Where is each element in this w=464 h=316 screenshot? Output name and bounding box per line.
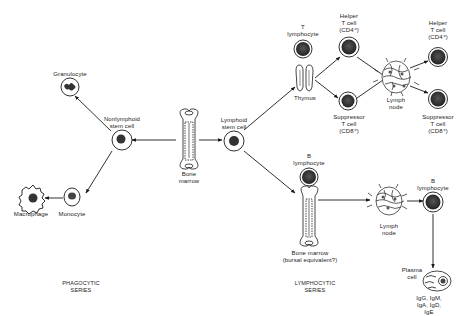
macrophage-icon (19, 185, 45, 214)
label-suppressor-t-cell-2: Suppressor T cell (CD8⁺) (422, 114, 454, 135)
label-lymph-node-b: Lymph node (380, 223, 398, 237)
label-b-lymphocyte-1: B lymphocyte (293, 153, 324, 167)
label-helper-t-cell-2: Helper T cell (CD4⁺) (428, 20, 448, 41)
label-suppressor-t-cell-1: Suppressor T cell (CD8⁺) (333, 114, 365, 135)
t-lymphocyte-icon (294, 40, 312, 58)
label-lymph-node-t: Lymph node (387, 97, 405, 111)
suppressor-t-cell-2-icon (429, 90, 448, 109)
edge-thymus-helper (315, 57, 340, 78)
cell-lineage-diagram (0, 0, 464, 316)
label-b-lymphocyte-2: B lymphocyte (417, 178, 448, 192)
b-lymphocyte-2-icon (423, 192, 443, 212)
label-lymphocytic-series: LYMPHOCYTIC SERIES (295, 280, 335, 294)
edges (45, 57, 433, 268)
edge-lymphoid-bursal (244, 151, 295, 193)
lymphoid-stem-cell-icon (224, 131, 244, 151)
label-helper-t-cell-1: Helper T cell (CD4⁺) (339, 13, 359, 34)
helper-t-cell-1-icon (339, 37, 359, 57)
lymph-node-b-icon (367, 184, 407, 215)
edge-lymphnode-helper2 (410, 61, 428, 68)
lymph-node-t-icon (373, 58, 419, 96)
plasma-cell-icon (423, 271, 451, 291)
label-monocyte: Monocyte (59, 211, 86, 218)
edge-thymus-suppressor (315, 80, 338, 98)
label-immunoglobulins: IgG, IgM, IgA, IgD, IgE (412, 295, 447, 316)
label-nonlymphoid-stem-cell: Nonlymphoid stem cell (104, 116, 140, 130)
bone-marrow-bursal-icon (300, 186, 318, 247)
nonlymphoid-stem-cell-icon (112, 130, 132, 150)
edge-lymphnode-suppressor2 (410, 86, 428, 93)
thymus-icon (296, 65, 313, 91)
label-lymphoid-stem-cell: Lymphoid stem cell (221, 117, 248, 131)
label-bone-marrow-bursal: Bone marrow (bursal equivalent?) (283, 250, 338, 264)
edge-lymphoid-thymus (244, 87, 295, 130)
helper-t-cell-2-icon (429, 48, 448, 67)
edge-suppressor-lymphnode (357, 80, 383, 98)
b-lymphocyte-1-icon (300, 168, 318, 186)
monocyte-icon (64, 188, 80, 206)
suppressor-t-cell-1-icon (339, 92, 357, 110)
bone-marrow-icon (180, 109, 198, 170)
label-macrophage: Macrophage (14, 211, 48, 218)
edge-helper-lymphnode (357, 57, 383, 75)
label-bone-marrow: Bone marrow (179, 171, 200, 185)
label-plasma-cell: Plasma cell (402, 267, 423, 281)
label-t-lymphocyte: T lymphocyte (287, 24, 318, 38)
label-granulocyte: Granulocyte (53, 71, 86, 78)
label-phagocytic-series: PHAGOCYTIC SERIES (62, 280, 99, 294)
edge-nonlymphoid-monocyte (86, 151, 112, 193)
label-thymus: Thymus (294, 95, 316, 102)
granulocyte-icon (61, 78, 79, 96)
